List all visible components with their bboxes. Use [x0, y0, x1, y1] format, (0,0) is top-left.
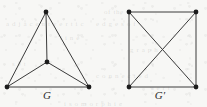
graph-g-prime-label: G′ — [155, 89, 165, 101]
graph-edge — [46, 12, 47, 62]
graph-vertex — [127, 85, 132, 90]
graph-vertex — [127, 10, 132, 15]
graph-drawing-canvas — [0, 0, 207, 107]
graph-vertex — [194, 10, 199, 15]
graph-g-drawing — [5, 10, 92, 90]
graph-edge — [46, 12, 89, 87]
graph-vertex — [194, 85, 199, 90]
graph-g-prime-drawing — [127, 10, 199, 90]
graph-g-vertices — [5, 10, 92, 90]
graph-vertex — [45, 60, 50, 65]
graph-vertex — [5, 85, 10, 90]
graph-edge — [47, 62, 89, 87]
graph-figure: of thea d j a c e n t v e r t i ce d g e… — [0, 0, 207, 107]
graph-g-label: G — [43, 89, 51, 101]
graph-vertex — [87, 85, 92, 90]
graph-vertex — [44, 10, 49, 15]
graph-edge — [7, 12, 46, 87]
graph-g-prime-edges — [129, 12, 196, 87]
graph-g-edges — [7, 12, 89, 87]
